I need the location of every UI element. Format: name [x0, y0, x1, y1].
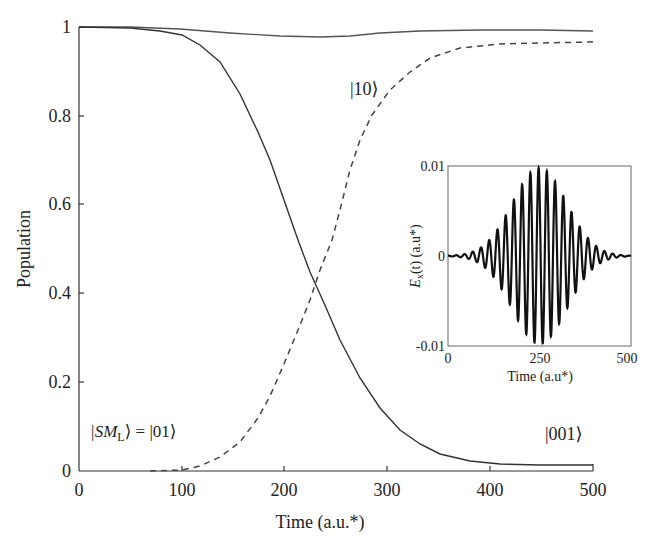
y-tick: 0.6 — [49, 194, 72, 214]
inset-y-tick: 0 — [438, 249, 445, 264]
x-axis-label: Time (a.u.*) — [276, 512, 365, 533]
y-tick: 0.2 — [49, 372, 72, 392]
series-10 — [79, 27, 593, 37]
y-axis-label: Population — [14, 210, 34, 288]
inset-x-tick: 250 — [530, 351, 551, 366]
x-tick: 200 — [271, 480, 298, 500]
inset-chart: 0.01 0 -0.01 0 250 500 Time (a.u*) Ex(t)… — [408, 159, 638, 385]
y-tick: 0 — [62, 461, 71, 481]
x-tick: 400 — [477, 480, 504, 500]
label-001: |001⟩ — [545, 424, 583, 444]
inset-x-label: Time (a.u*) — [507, 369, 573, 385]
inset-x-tick: 0 — [445, 351, 452, 366]
inset-y-tick: -0.01 — [416, 339, 445, 354]
y-tick: 0.4 — [49, 283, 72, 303]
y-tick: 1 — [62, 17, 71, 37]
inset-y-label: Ex(t) (a.u*) — [408, 224, 425, 289]
label-01: |SML⟩ = |01⟩ — [90, 422, 176, 444]
y-tick-labels: 0 0.2 0.4 0.6 0.8 1 — [49, 17, 72, 481]
y-tick: 0.8 — [49, 106, 72, 126]
x-tick-labels: 0 100 200 300 400 500 — [75, 480, 607, 500]
inset-x-tick: 500 — [617, 351, 638, 366]
label-10: |10⟩ — [350, 79, 379, 99]
x-tick: 100 — [169, 480, 196, 500]
x-tick: 500 — [580, 480, 607, 500]
inset-y-tick: 0.01 — [421, 159, 446, 174]
chart-canvas: 0 0.2 0.4 0.6 0.8 1 0 100 200 300 400 50… — [0, 0, 657, 548]
x-tick: 0 — [75, 480, 84, 500]
x-tick: 300 — [374, 480, 401, 500]
